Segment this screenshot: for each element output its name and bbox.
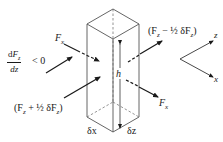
fz-gradient-arrow [46,57,72,73]
axis-x-arrow [180,59,213,77]
fz-out-label: (Fz − ½ δFz) [148,26,197,39]
width-z-label: δz [127,126,136,136]
axis-z-label: z [214,31,218,40]
gradient-fraction: dFz dz [7,49,21,74]
fx-right-arrow [126,80,158,97]
axis-z-arrow [180,41,213,59]
width-x-label: δx [87,126,97,136]
gradient-numerator: dFz [7,49,21,63]
height-label: h [116,69,121,79]
axis-x-label: x [214,75,218,84]
coordinate-axes [180,41,213,77]
fz-in-label: (Fz + ½ δFz) [14,103,63,116]
fz-in-arrow [64,77,100,98]
gradient-denominator: dz [7,63,21,74]
fx-left-label: Fx [55,33,64,46]
fx-right-label: Fx [159,98,168,111]
fluid-element-diagram [0,0,223,142]
box-hidden-edges [87,9,139,117]
gradient-condition: < 0 [32,56,45,66]
fz-out-arrow [128,41,162,62]
